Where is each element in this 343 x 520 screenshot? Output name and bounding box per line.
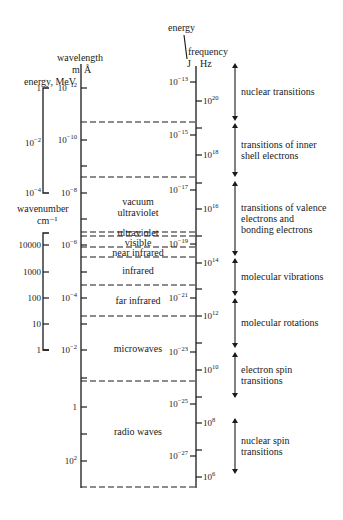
energy-j-tick-label: 10−23 <box>169 345 188 357</box>
transition-label: nuclear transitions <box>241 86 315 97</box>
arrow-head-up-icon <box>232 418 238 423</box>
wavelength-tick-label: 10−6 <box>61 238 78 250</box>
transition-label: transitions <box>241 446 283 457</box>
wavelength-tick-label: 10−2 <box>61 343 77 355</box>
wavenumber-tick-label: 10000 <box>19 240 42 250</box>
wavelength-axis-title: wavelength <box>57 52 103 63</box>
wavelength-unit-angstrom: Å <box>84 64 92 75</box>
frequency-tick-label: 1012 <box>203 309 219 321</box>
arrow-head-down-icon <box>232 116 238 121</box>
transition-label: electron spin <box>241 364 292 375</box>
wavenumber-axis-title: wavenumber <box>17 203 69 214</box>
energy-j-tick-label: 10−21 <box>169 291 188 303</box>
energy-j-tick-label: 10−15 <box>169 128 188 140</box>
energy-j-tick-label: 10−27 <box>169 449 189 461</box>
region-label: vacuum <box>122 196 154 207</box>
arrow-head-up-icon <box>232 63 238 68</box>
wavenumber-tick-label: 1000 <box>23 267 42 277</box>
arrow-head-up-icon <box>232 181 238 186</box>
wavenumber-tick-label: 100 <box>28 293 42 303</box>
frequency-axis-title: frequency <box>188 46 228 57</box>
energy-j-tick-label: 10−13 <box>169 75 188 87</box>
arrow-head-down-icon <box>232 469 238 474</box>
frequency-tick-label: 106 <box>203 470 216 482</box>
wavenumber-tick-label: 10 <box>32 319 42 329</box>
wavelength-tick-label: 10−10 <box>58 133 77 145</box>
energy-mev-tick-label: 10−4 <box>25 186 42 198</box>
region-label: near infrared <box>112 247 163 258</box>
frequency-unit: Hz <box>200 58 212 69</box>
region-label: radio waves <box>114 426 162 437</box>
arrow-head-up-icon <box>232 352 238 357</box>
energy-leader-line <box>184 35 187 59</box>
energy-j-tick-label: 10−17 <box>169 183 189 195</box>
frequency-tick-label: 108 <box>203 416 215 428</box>
wavelength-unit-m: m <box>72 64 80 75</box>
transition-label: transitions of inner <box>241 139 317 150</box>
wavenumber-bracket <box>43 233 49 350</box>
arrow-head-down-icon <box>232 291 238 296</box>
frequency-tick-label: 1016 <box>203 202 219 214</box>
wavelength-tick-label: 1 <box>73 402 78 412</box>
wavenumber-unit: cm⁻¹ <box>37 215 58 226</box>
transition-label: bonding electrons <box>241 224 312 235</box>
arrow-head-up-icon <box>232 258 238 263</box>
transition-label: electrons and <box>241 213 294 224</box>
frequency-tick-label: 1014 <box>203 256 219 268</box>
transition-label: molecular vibrations <box>241 271 324 282</box>
energy-mev-bracket <box>43 88 49 193</box>
arrow-head-up-icon <box>232 298 238 303</box>
arrow-head-up-icon <box>232 123 238 128</box>
energy-j-unit: J <box>187 58 191 69</box>
wavelength-tick-label: 10−12 <box>58 81 77 93</box>
frequency-tick-label: 1010 <box>203 363 219 375</box>
wavelength-tick-label: 10−4 <box>61 291 78 303</box>
electromagnetic-spectrum-diagram: wavelength m Å energy, MeV wavenumber cm… <box>0 0 343 520</box>
region-label: microwaves <box>114 343 162 354</box>
frequency-tick-label: 1020 <box>203 94 219 106</box>
arrow-head-down-icon <box>232 251 238 256</box>
transition-label: shell electrons <box>241 150 299 161</box>
transition-label: molecular rotations <box>241 317 319 328</box>
transition-label: transitions <box>241 375 283 386</box>
wavelength-tick-label: 10−8 <box>61 186 77 198</box>
transition-label: transitions of valence <box>241 202 327 213</box>
dynamic-layer: 10−1210−1010−810−610−410−21102110−210−41… <box>19 63 328 487</box>
arrow-head-down-icon <box>232 343 238 348</box>
region-label: ultraviolet <box>117 207 158 218</box>
arrow-head-down-icon <box>232 393 238 398</box>
frequency-tick-label: 1018 <box>203 148 219 160</box>
region-label: far infrared <box>115 295 160 306</box>
energy-mev-tick-label: 1 <box>37 83 42 93</box>
region-label: infrared <box>122 265 154 276</box>
wavenumber-tick-label: 1 <box>37 345 42 355</box>
energy-j-tick-label: 10−25 <box>169 397 188 409</box>
wavelength-tick-label: 102 <box>65 454 77 466</box>
arrow-head-down-icon <box>232 172 238 177</box>
transition-label: nuclear spin <box>241 435 290 446</box>
energy-j-axis-title: energy <box>168 22 195 33</box>
energy-mev-tick-label: 10−2 <box>25 136 41 148</box>
